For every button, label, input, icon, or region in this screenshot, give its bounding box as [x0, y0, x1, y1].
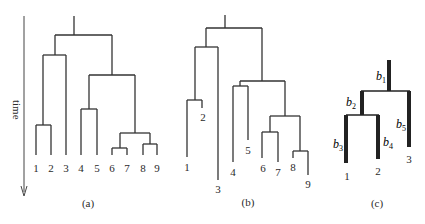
- leaf-label: 4: [230, 166, 236, 178]
- leaf-label: 9: [305, 178, 311, 190]
- tree-c-branch-labels: b1 b2 b3 b4 b5: [333, 69, 406, 153]
- branch-label-b3: b3: [333, 137, 343, 153]
- leaf-label: 7: [275, 166, 281, 178]
- leaf-label: 1: [33, 162, 39, 174]
- caption-a: (a): [82, 197, 95, 210]
- leaf-label: 8: [140, 162, 146, 174]
- branch-label-b4: b4: [383, 135, 393, 151]
- leaf-label: 7: [124, 162, 130, 174]
- caption-b: (b): [242, 196, 255, 209]
- leaf-label: 3: [215, 183, 221, 195]
- leaf-label: 1: [344, 170, 350, 182]
- leaf-label: 6: [109, 162, 115, 174]
- time-axis-label: time: [11, 100, 23, 120]
- leaf-label: 5: [245, 144, 251, 156]
- branch-label-b5: b5: [396, 117, 406, 133]
- branch-label-b1: b1: [376, 69, 386, 85]
- leaf-label: 2: [48, 162, 54, 174]
- leaf-label: 2: [200, 111, 206, 123]
- leaf-label: 3: [63, 162, 69, 174]
- leaf-label: 4: [78, 162, 84, 174]
- leaf-label: 6: [260, 162, 266, 174]
- leaf-label: 9: [154, 162, 160, 174]
- leaf-label: 2: [375, 165, 381, 177]
- leaf-label: 1: [184, 161, 190, 173]
- tree-a: [36, 16, 157, 155]
- leaf-label: 5: [94, 162, 100, 174]
- leaf-label: 8: [290, 161, 296, 173]
- tree-a-leaf-labels: 1 2 3 4 5 6 7 8 9: [33, 162, 160, 174]
- phylogeny-figure: time 1 2 3 4 5 6 7 8 9: [0, 0, 425, 224]
- branch-label-b2: b2: [346, 95, 356, 111]
- caption-c: (c): [371, 197, 384, 210]
- leaf-label: 3: [406, 153, 412, 165]
